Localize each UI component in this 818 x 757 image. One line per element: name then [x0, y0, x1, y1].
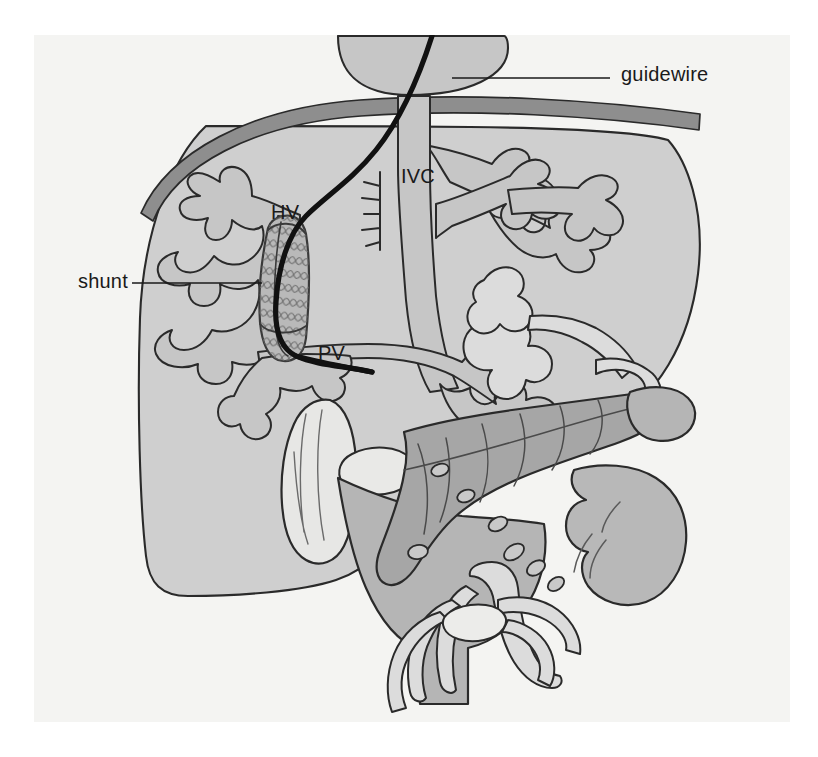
callout-label-guidewire: guidewire [621, 63, 708, 86]
anatomy-label-pv: PV [318, 342, 345, 365]
callout-leaders [0, 0, 818, 757]
anatomy-label-ivc: IVC [401, 165, 435, 188]
figure-root: guidewire shunt HV IVC PV [0, 0, 818, 757]
anatomy-label-hv: HV [271, 201, 299, 224]
callout-label-shunt: shunt [78, 270, 128, 293]
